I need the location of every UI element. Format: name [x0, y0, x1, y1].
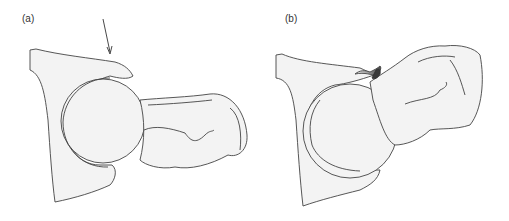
figure: (a) (b) [0, 0, 509, 221]
panel-b-diagram [276, 45, 482, 206]
diagram-svg [0, 0, 509, 221]
panel-a-diagram [30, 19, 247, 202]
